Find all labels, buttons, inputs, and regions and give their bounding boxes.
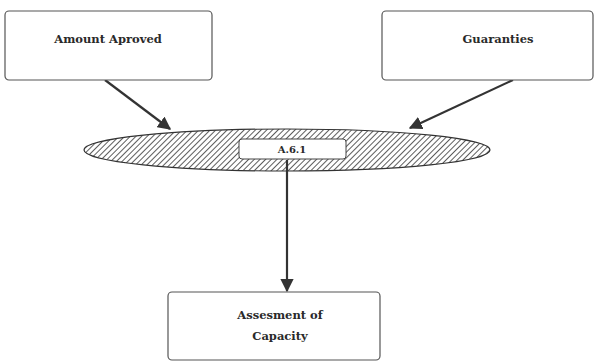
node-guaranties[interactable]: Guaranties: [382, 11, 593, 80]
node-assessment-label-line2: Capacity: [252, 329, 308, 343]
node-guaranties-label: Guaranties: [463, 32, 534, 46]
flow-diagram: Amount Aproved Guaranties A.6.1 Assesmen…: [0, 0, 599, 363]
node-assessment[interactable]: Assesment of Capacity: [168, 292, 380, 360]
node-process-label: A.6.1: [277, 144, 307, 155]
node-assessment-label-line1: Assesment of: [236, 308, 323, 322]
edge-amount-to-process: [105, 80, 170, 129]
edge-guaranties-to-process: [410, 80, 513, 128]
node-amount-approved[interactable]: Amount Aproved: [5, 11, 212, 80]
node-amount-approved-label: Amount Aproved: [53, 32, 162, 46]
node-process[interactable]: A.6.1: [84, 129, 490, 171]
